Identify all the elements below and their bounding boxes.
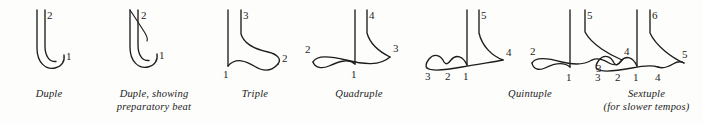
caption-duple: Duple bbox=[0, 88, 98, 101]
beat-label-1: 1 bbox=[566, 71, 572, 83]
pattern-quintuple-a: 5 4 1 2 3 Quintuple bbox=[418, 0, 530, 123]
beat-label-6: 6 bbox=[652, 9, 658, 21]
beat-label-2: 2 bbox=[530, 45, 536, 57]
beat-label-2: 2 bbox=[445, 70, 451, 82]
quintuple-b-beat1-to-beat2 bbox=[532, 63, 570, 69]
pattern-duple-preparatory: 2 1 Duple, showing preparatory beat bbox=[98, 0, 210, 123]
beat-label-2: 2 bbox=[47, 9, 53, 21]
caption-quadruple: Quadruple bbox=[300, 88, 418, 101]
beat-label-3: 3 bbox=[595, 71, 601, 83]
beat-label-3: 3 bbox=[425, 70, 431, 82]
beat-label-2: 2 bbox=[615, 71, 621, 83]
caption-sextuple-line1: Sextuple bbox=[628, 88, 665, 99]
caption-duple-prep-line2: preparatory beat bbox=[98, 101, 210, 114]
beat-label-1: 1 bbox=[159, 49, 165, 61]
beat-label-2: 2 bbox=[305, 43, 311, 55]
caption-triple: Triple bbox=[210, 88, 300, 101]
caption-duple-prep-line1: Duple, showing bbox=[120, 88, 189, 99]
duple-diagram: 2 1 bbox=[0, 0, 98, 86]
triple-beat1-to-beat2 bbox=[228, 61, 278, 70]
beat-label-1: 1 bbox=[633, 71, 639, 83]
beat-label-2: 2 bbox=[282, 52, 288, 64]
beat-label-1: 1 bbox=[351, 68, 357, 80]
beat-label-4: 4 bbox=[369, 9, 375, 21]
pattern-duple: 2 1 Duple bbox=[0, 0, 98, 123]
pattern-quadruple: 4 3 2 1 Quadruple bbox=[300, 0, 418, 123]
sextuple-diagram: 6 5 4 1 2 3 bbox=[590, 0, 703, 86]
beat-label-1: 1 bbox=[223, 68, 229, 80]
quadruple-diagram: 4 3 2 1 bbox=[300, 0, 418, 86]
beat-label-5: 5 bbox=[682, 48, 688, 60]
conducting-patterns-figure: 2 1 Duple 2 1 Duple, showing preparatory… bbox=[0, 0, 703, 123]
beat-label-1: 1 bbox=[66, 50, 72, 62]
beat-label-3: 3 bbox=[243, 9, 249, 21]
quadruple-beat1-to-beat2 bbox=[313, 61, 355, 68]
pattern-triple: 3 2 1 Triple bbox=[210, 0, 300, 123]
beat-label-3: 3 bbox=[393, 42, 399, 54]
caption-duple-line1: Duple bbox=[36, 88, 63, 99]
duple-preparatory-diagram: 2 1 bbox=[98, 0, 210, 86]
beat-label-1: 1 bbox=[463, 70, 469, 82]
beat-label-4: 4 bbox=[655, 71, 661, 83]
sextuple-beat3-to-beat4 bbox=[597, 66, 658, 71]
triple-diagram: 3 2 1 bbox=[210, 0, 300, 86]
quintuple-a-diagram: 5 4 1 2 3 bbox=[418, 0, 530, 86]
pattern-sextuple: 6 5 4 1 2 3 Sextuple (for slower tempos) bbox=[590, 0, 703, 123]
beat-label-4: 4 bbox=[506, 46, 512, 58]
caption-quadruple-line1: Quadruple bbox=[335, 88, 382, 99]
caption-triple-line1: Triple bbox=[242, 88, 268, 99]
sextuple-beat1-to-beat3 bbox=[596, 56, 637, 69]
sextuple-beat4-to-beat5 bbox=[658, 62, 684, 68]
beat-label-2: 2 bbox=[141, 9, 147, 21]
beat-label-5: 5 bbox=[481, 9, 487, 21]
caption-duple-preparatory: Duple, showing preparatory beat bbox=[98, 88, 210, 113]
caption-sextuple: Sextuple (for slower tempos) bbox=[590, 88, 703, 113]
caption-sextuple-line2: (for slower tempos) bbox=[590, 101, 703, 114]
quintuple-a-beat1-to-beat3 bbox=[426, 55, 467, 68]
